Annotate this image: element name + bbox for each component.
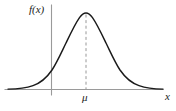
y-axis-label: f(x) bbox=[29, 4, 44, 15]
normal-distribution-figure: f(x) μ x bbox=[0, 0, 176, 111]
x-axis-label: x bbox=[165, 91, 170, 102]
plot-canvas bbox=[0, 0, 176, 111]
mean-tick-label: μ bbox=[82, 92, 88, 103]
normal-curve-path bbox=[8, 13, 163, 89]
